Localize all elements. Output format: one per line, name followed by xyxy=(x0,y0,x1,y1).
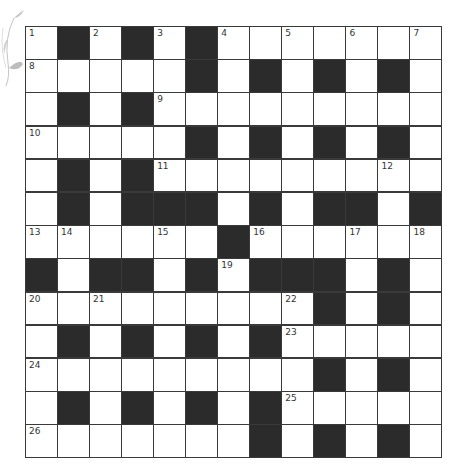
crossword-cell[interactable] xyxy=(346,359,377,391)
crossword-cell[interactable] xyxy=(346,160,377,192)
crossword-cell[interactable] xyxy=(346,127,377,159)
crossword-cell[interactable] xyxy=(154,293,185,325)
crossword-cell[interactable]: 17 xyxy=(346,226,377,258)
crossword-cell[interactable] xyxy=(90,193,121,225)
crossword-cell[interactable] xyxy=(314,326,345,358)
crossword-cell[interactable] xyxy=(58,259,89,291)
crossword-cell[interactable] xyxy=(58,359,89,391)
crossword-cell[interactable] xyxy=(410,392,441,424)
crossword-cell[interactable] xyxy=(186,226,217,258)
crossword-cell[interactable] xyxy=(90,160,121,192)
crossword-cell[interactable] xyxy=(410,259,441,291)
crossword-cell[interactable]: 8 xyxy=(26,60,57,92)
crossword-cell[interactable]: 18 xyxy=(410,226,441,258)
crossword-cell[interactable] xyxy=(282,425,313,457)
crossword-cell[interactable]: 16 xyxy=(250,226,281,258)
crossword-cell[interactable] xyxy=(346,60,377,92)
crossword-cell[interactable] xyxy=(58,293,89,325)
crossword-cell[interactable] xyxy=(346,259,377,291)
crossword-cell[interactable] xyxy=(154,127,185,159)
crossword-cell[interactable] xyxy=(282,127,313,159)
crossword-cell[interactable]: 25 xyxy=(282,392,313,424)
crossword-cell[interactable]: 2 xyxy=(90,27,121,59)
crossword-cell[interactable] xyxy=(282,93,313,125)
crossword-cell[interactable]: 22 xyxy=(282,293,313,325)
crossword-cell[interactable]: 20 xyxy=(26,293,57,325)
crossword-cell[interactable]: 12 xyxy=(378,160,409,192)
crossword-cell[interactable]: 5 xyxy=(282,27,313,59)
crossword-cell[interactable] xyxy=(410,127,441,159)
crossword-cell[interactable]: 14 xyxy=(58,226,89,258)
crossword-cell[interactable]: 21 xyxy=(90,293,121,325)
crossword-cell[interactable] xyxy=(378,226,409,258)
crossword-cell[interactable] xyxy=(410,60,441,92)
crossword-cell[interactable]: 10 xyxy=(26,127,57,159)
crossword-cell[interactable] xyxy=(250,359,281,391)
crossword-cell[interactable] xyxy=(26,392,57,424)
crossword-cell[interactable] xyxy=(218,326,249,358)
crossword-cell[interactable] xyxy=(122,293,153,325)
crossword-cell[interactable] xyxy=(186,93,217,125)
crossword-cell[interactable] xyxy=(314,160,345,192)
crossword-cell[interactable] xyxy=(250,160,281,192)
crossword-cell[interactable] xyxy=(250,27,281,59)
crossword-cell[interactable] xyxy=(154,326,185,358)
crossword-cell[interactable] xyxy=(282,60,313,92)
crossword-cell[interactable]: 24 xyxy=(26,359,57,391)
crossword-cell[interactable] xyxy=(314,27,345,59)
crossword-cell[interactable]: 9 xyxy=(154,93,185,125)
crossword-cell[interactable] xyxy=(154,60,185,92)
crossword-cell[interactable] xyxy=(218,359,249,391)
crossword-cell[interactable]: 15 xyxy=(154,226,185,258)
crossword-cell[interactable] xyxy=(346,293,377,325)
crossword-cell[interactable] xyxy=(90,359,121,391)
crossword-cell[interactable]: 19 xyxy=(218,259,249,291)
crossword-cell[interactable]: 4 xyxy=(218,27,249,59)
crossword-cell[interactable] xyxy=(58,60,89,92)
crossword-cell[interactable] xyxy=(282,193,313,225)
crossword-cell[interactable] xyxy=(346,93,377,125)
crossword-cell[interactable] xyxy=(122,359,153,391)
crossword-cell[interactable] xyxy=(314,392,345,424)
crossword-cell[interactable] xyxy=(410,326,441,358)
crossword-cell[interactable] xyxy=(218,160,249,192)
crossword-cell[interactable] xyxy=(218,193,249,225)
crossword-cell[interactable] xyxy=(186,425,217,457)
crossword-cell[interactable] xyxy=(58,425,89,457)
crossword-cell[interactable] xyxy=(90,127,121,159)
crossword-cell[interactable] xyxy=(218,60,249,92)
crossword-cell[interactable] xyxy=(282,160,313,192)
crossword-cell[interactable] xyxy=(154,392,185,424)
crossword-cell[interactable]: 23 xyxy=(282,326,313,358)
crossword-cell[interactable]: 26 xyxy=(26,425,57,457)
crossword-cell[interactable]: 7 xyxy=(410,27,441,59)
crossword-cell[interactable] xyxy=(58,127,89,159)
crossword-cell[interactable] xyxy=(314,226,345,258)
crossword-cell[interactable] xyxy=(122,425,153,457)
crossword-cell[interactable] xyxy=(410,359,441,391)
crossword-cell[interactable] xyxy=(250,293,281,325)
crossword-cell[interactable] xyxy=(378,326,409,358)
crossword-cell[interactable] xyxy=(26,193,57,225)
crossword-cell[interactable] xyxy=(346,425,377,457)
crossword-cell[interactable] xyxy=(346,392,377,424)
crossword-cell[interactable] xyxy=(154,425,185,457)
crossword-cell[interactable] xyxy=(26,93,57,125)
crossword-cell[interactable] xyxy=(90,60,121,92)
crossword-cell[interactable] xyxy=(282,226,313,258)
crossword-cell[interactable] xyxy=(378,93,409,125)
crossword-cell[interactable] xyxy=(26,160,57,192)
crossword-cell[interactable] xyxy=(410,425,441,457)
crossword-cell[interactable]: 6 xyxy=(346,27,377,59)
crossword-cell[interactable] xyxy=(410,93,441,125)
crossword-cell[interactable]: 1 xyxy=(26,27,57,59)
crossword-cell[interactable] xyxy=(154,359,185,391)
crossword-cell[interactable] xyxy=(218,93,249,125)
crossword-cell[interactable]: 13 xyxy=(26,226,57,258)
crossword-cell[interactable] xyxy=(122,127,153,159)
crossword-cell[interactable] xyxy=(90,226,121,258)
crossword-cell[interactable] xyxy=(122,226,153,258)
crossword-cell[interactable] xyxy=(90,392,121,424)
crossword-cell[interactable]: 3 xyxy=(154,27,185,59)
crossword-cell[interactable] xyxy=(186,160,217,192)
